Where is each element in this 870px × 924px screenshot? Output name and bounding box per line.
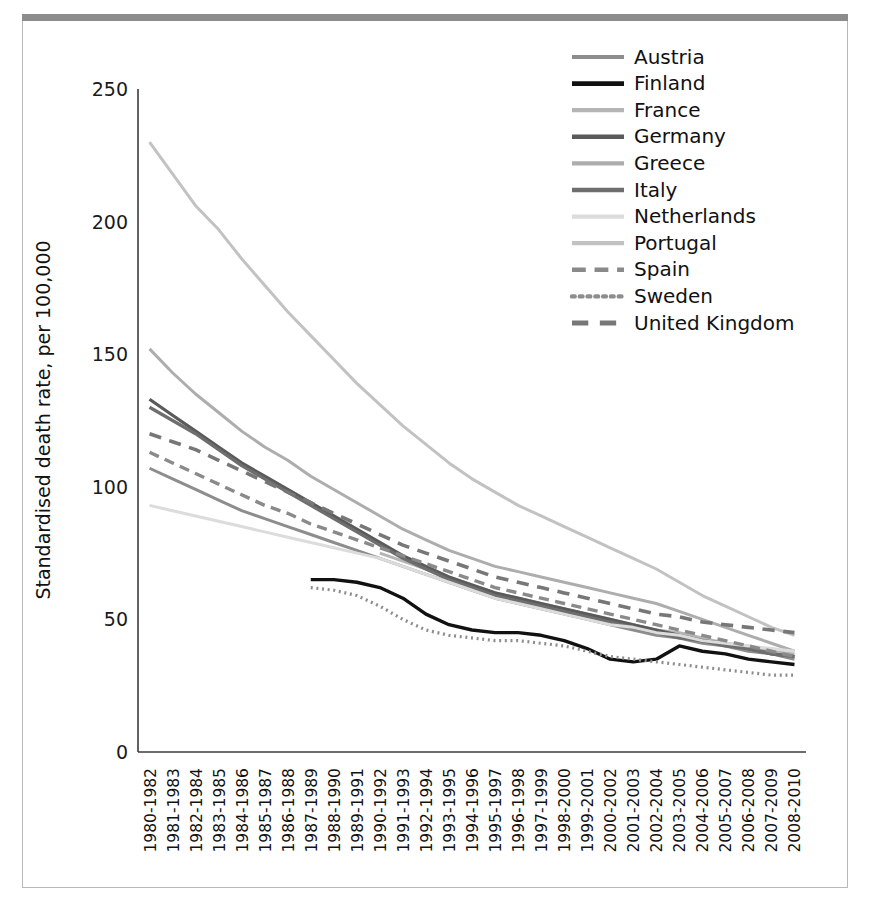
x-tick-label: 2004-2006 <box>694 768 712 853</box>
x-tick-label: 1989-1991 <box>349 768 367 853</box>
legend-label-italy: Italy <box>634 178 678 202</box>
x-tick-label: 1991-1993 <box>395 768 413 853</box>
x-tick-label: 1986-1988 <box>280 768 298 853</box>
x-tick-label: 1980-1982 <box>142 768 160 853</box>
x-tick-label: 1995-1997 <box>487 768 505 853</box>
x-tick-label: 2006-2008 <box>740 768 758 853</box>
x-tick-label: 2007-2009 <box>763 768 781 853</box>
x-tick-label: 1988-1990 <box>326 768 344 853</box>
legend-label-portugal: Portugal <box>634 231 717 255</box>
figure-container: Standardised death rate, per 100,000 050… <box>0 0 870 924</box>
series-line-france <box>380 553 795 654</box>
x-tick-label: 1981-1983 <box>165 768 183 853</box>
series-line-united-kingdom <box>150 434 795 633</box>
y-axis-ticks: 050100150200250 <box>92 78 128 763</box>
y-tick-label: 150 <box>92 343 128 365</box>
line-chart: Standardised death rate, per 100,000 050… <box>0 0 870 924</box>
y-tick-label: 0 <box>116 741 128 763</box>
legend-label-spain: Spain <box>634 257 690 281</box>
x-tick-label: 1990-1992 <box>372 768 390 853</box>
x-tick-label: 1993-1995 <box>441 768 459 853</box>
series-line-spain <box>150 452 795 656</box>
x-tick-label: 2005-2007 <box>717 768 735 853</box>
legend-label-netherlands: Netherlands <box>634 204 756 228</box>
series-line-greece <box>150 349 795 651</box>
x-tick-label: 1984-1986 <box>234 768 252 853</box>
x-tick-label: 1987-1989 <box>303 768 321 853</box>
x-tick-label: 2008-2010 <box>786 768 804 853</box>
legend-label-united-kingdom: United Kingdom <box>634 311 795 335</box>
x-tick-label: 1996-1998 <box>510 768 528 853</box>
x-axis-ticks: 1980-19821981-19831982-19841983-19851984… <box>142 768 805 853</box>
chart-plot-area: Standardised death rate, per 100,000 050… <box>0 0 870 924</box>
x-tick-label: 2002-2004 <box>648 768 666 853</box>
y-axis-title-text: Standardised death rate, per 100,000 <box>32 240 54 599</box>
legend-label-germany: Germany <box>634 124 726 148</box>
chart-legend: AustriaFinlandFranceGermanyGreeceItalyNe… <box>572 45 795 335</box>
x-tick-label: 2003-2005 <box>671 768 689 853</box>
x-tick-label: 1992-1994 <box>418 768 436 853</box>
x-tick-label: 2000-2002 <box>602 768 620 853</box>
x-tick-label: 2001-2003 <box>625 768 643 853</box>
legend-label-austria: Austria <box>634 45 705 69</box>
legend-label-sweden: Sweden <box>634 284 713 308</box>
y-tick-label: 100 <box>92 476 128 498</box>
x-tick-label: 1982-1984 <box>188 768 206 853</box>
y-tick-label: 250 <box>92 78 128 100</box>
x-tick-label: 1997-1999 <box>533 768 551 853</box>
x-tick-label: 1998-2000 <box>556 768 574 853</box>
y-tick-label: 200 <box>92 211 128 233</box>
y-axis-title: Standardised death rate, per 100,000 <box>32 240 54 599</box>
y-tick-label: 50 <box>104 608 128 630</box>
legend-label-france: France <box>634 98 701 122</box>
series-line-finland <box>311 580 795 665</box>
x-tick-label: 1985-1987 <box>257 768 275 853</box>
legend-label-greece: Greece <box>634 151 705 175</box>
x-tick-label: 1983-1985 <box>211 768 229 853</box>
legend-label-finland: Finland <box>634 71 705 95</box>
series-line-sweden <box>311 588 795 676</box>
x-tick-label: 1994-1996 <box>464 768 482 853</box>
x-tick-label: 1999-2001 <box>579 768 597 853</box>
